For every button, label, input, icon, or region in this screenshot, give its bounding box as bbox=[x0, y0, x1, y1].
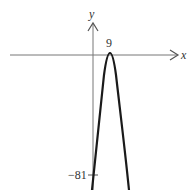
parabola-graph: x y −81 9 bbox=[0, 0, 191, 190]
parabola-curve bbox=[92, 53, 129, 190]
vertex-label: 9 bbox=[106, 36, 112, 50]
y-axis-label: y bbox=[88, 7, 95, 21]
x-axis bbox=[10, 50, 178, 60]
y-intercept-label: −81 bbox=[68, 168, 87, 182]
x-axis-label: x bbox=[180, 48, 187, 62]
y-axis bbox=[88, 23, 98, 190]
